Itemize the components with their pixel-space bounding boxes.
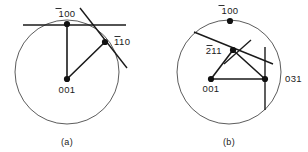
pole-label-031-b: 031 xyxy=(285,73,302,84)
pole-label-1bar10-a: 110 xyxy=(114,36,130,47)
caption-panel-b: (b) xyxy=(223,137,235,147)
pole-001-b xyxy=(208,76,214,82)
pole-label-1bar00-b: 100 xyxy=(221,5,238,16)
pole-label-001-a: 001 xyxy=(58,84,75,95)
pole-001-a xyxy=(64,76,70,82)
pole-031-b xyxy=(262,76,268,82)
pole-2bar11-b xyxy=(230,47,236,53)
pole-1bar00-a xyxy=(64,21,70,27)
pole-label-1bar00-a: 100 xyxy=(58,8,75,19)
pole-1bar00-b xyxy=(227,18,233,24)
trace-upper-through-211-b xyxy=(224,40,251,64)
zone-001-to-110-a xyxy=(67,42,105,79)
stereographic-projection-figure: 100 110 001 (a) 100 211 001 031 (b) xyxy=(0,0,308,152)
pole-label-2bar11-b: 211 xyxy=(206,45,222,56)
pole-label-001-b: 001 xyxy=(202,83,219,94)
panel-a: 100 110 001 (a) xyxy=(0,0,154,152)
caption-panel-a: (a) xyxy=(61,137,73,147)
pole-1bar10-a xyxy=(102,39,108,45)
panel-b: 100 211 001 031 (b) xyxy=(154,0,308,152)
